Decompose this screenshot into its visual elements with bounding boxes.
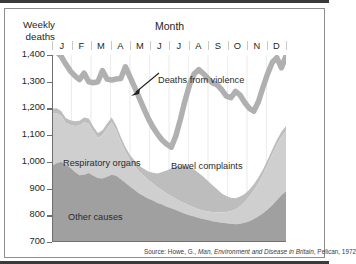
x-tick-separator <box>150 41 151 50</box>
x-tick-label-m-2: M <box>91 41 111 51</box>
x-tick-label-f-1: F <box>71 41 91 51</box>
y-tick-mark <box>47 242 52 243</box>
x-tick-label-j-5: J <box>149 41 169 51</box>
x-tick-separator <box>267 41 268 50</box>
x-tick-label-a-3: A <box>110 41 130 51</box>
y-tick-label: 1,300 <box>5 76 45 86</box>
y-tick-label: 1,400 <box>5 49 45 59</box>
source-prefix: Source: Howe, G., <box>144 248 198 255</box>
x-tick-label-s-8: S <box>208 41 228 51</box>
x-tick-separator <box>130 41 131 50</box>
x-tick-label-j-6: J <box>169 41 189 51</box>
source-title: Man, Environment and Disease in Britain <box>198 248 314 255</box>
x-tick-label-j-0: J <box>52 41 72 51</box>
x-tick-separator <box>247 41 248 50</box>
x-tick-separator <box>111 41 112 50</box>
x-tick-separator <box>286 41 287 50</box>
source-attribution: Source: Howe, G., Man, Environment and D… <box>144 248 356 255</box>
figure-inner-border: Weekly deaths Month 1,4001,3001,2001,100… <box>4 8 325 258</box>
y-axis-title-line1: Weekly <box>23 19 55 30</box>
x-tick-label-m-4: M <box>130 41 150 51</box>
annotation-deaths-from-violence: Deaths from violence <box>158 75 244 85</box>
annotation-other-causes: Other causes <box>68 212 123 222</box>
x-tick-separator <box>189 41 190 50</box>
annotation-bowel-complaints: Bowel complaints <box>171 161 243 171</box>
x-tick-separator <box>72 41 73 50</box>
y-tick-label: 1,200 <box>5 102 45 112</box>
x-tick-label-d-11: D <box>266 41 286 51</box>
annotation-arrow-icon <box>129 71 161 97</box>
source-suffix: , Pelican, 1972 <box>314 248 356 255</box>
x-axis-title: Month <box>155 20 184 32</box>
x-tick-label-n-10: N <box>247 41 267 51</box>
x-tick-label-a-7: A <box>188 41 208 51</box>
y-axis-title: Weekly deaths <box>11 19 55 42</box>
y-tick-label: 900 <box>5 183 45 193</box>
y-tick-label: 700 <box>5 236 45 246</box>
annotation-respiratory-organs: Respiratory organs <box>63 158 141 168</box>
x-tick-separator <box>228 41 229 50</box>
y-tick-label: 800 <box>5 209 45 219</box>
x-tick-separator <box>169 41 170 50</box>
x-tick-separator <box>208 41 209 50</box>
x-tick-separator <box>91 41 92 50</box>
y-tick-label: 1,000 <box>5 156 45 166</box>
y-axis-title-line2: deaths <box>26 31 55 42</box>
x-tick-separator <box>52 41 53 50</box>
x-tick-label-o-9: O <box>227 41 247 51</box>
y-tick-label: 1,100 <box>5 129 45 139</box>
